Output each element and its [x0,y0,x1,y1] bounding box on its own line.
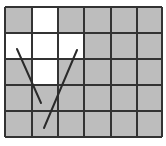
grid-cell-white [32,7,58,33]
grid-cell-gray [84,59,111,85]
grid-cell-gray [58,111,84,137]
grid-cell-gray [84,7,111,33]
grid-cell-gray [137,7,162,33]
grid-cell-gray [5,7,32,33]
grid-cell-white [58,33,84,59]
grid-cell-white [32,33,58,59]
grid-cell-gray [5,85,32,111]
grid-cell-gray [137,33,162,59]
grid-cell-gray [111,85,137,111]
grid-cell-gray [84,33,111,59]
grid-cell-gray [111,111,137,137]
grid-cell-gray [84,111,111,137]
grid-cell-gray [111,59,137,85]
grid-cell-gray [137,59,162,85]
grid-diagram [0,0,166,146]
grid-cell-gray [111,7,137,33]
grid-cell-white [32,59,58,85]
grid-cell-gray [58,85,84,111]
grid-cell-white [5,33,32,59]
grid-cell-gray [137,111,162,137]
grid-cell-gray [111,33,137,59]
grid-cell-gray [137,85,162,111]
grid-cell-gray [84,85,111,111]
grid-cell-gray [32,85,58,111]
grid-cell-gray [58,7,84,33]
grid-canvas [0,0,166,146]
grid-cell-gray [5,111,32,137]
